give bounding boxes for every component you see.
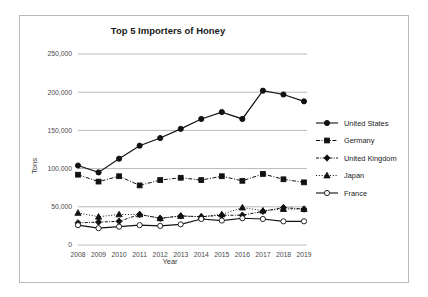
- data-point-marker: [96, 170, 101, 175]
- legend-label: Germany: [344, 136, 375, 145]
- data-point-marker: [96, 226, 101, 231]
- data-point-marker: [260, 216, 265, 221]
- data-point-marker: [301, 219, 306, 224]
- data-point-marker: [240, 178, 245, 183]
- data-point-marker: [178, 175, 183, 180]
- data-point-marker: [239, 204, 245, 210]
- data-point-marker: [302, 180, 307, 185]
- data-point-marker: [260, 88, 265, 93]
- chart-legend: United StatesGermanyUnited KingdomJapanF…: [316, 119, 397, 198]
- data-point-marker: [199, 178, 204, 183]
- x-tick-label: 2008: [70, 251, 85, 258]
- data-point-marker: [324, 190, 329, 195]
- data-point-marker: [219, 174, 224, 179]
- series-united-states: [75, 88, 306, 175]
- data-point-marker: [137, 183, 142, 188]
- chart-title: Top 5 Importers of Honey: [111, 25, 226, 36]
- x-tick-label: 2011: [132, 251, 147, 258]
- data-point-marker: [117, 174, 122, 179]
- x-tick-label: 2019: [296, 251, 311, 258]
- legend-label: France: [344, 189, 367, 198]
- x-tick-label: 2016: [235, 251, 250, 258]
- data-point-marker: [261, 172, 266, 177]
- data-point-marker: [116, 211, 122, 217]
- data-point-marker: [325, 138, 330, 143]
- data-point-marker: [137, 143, 142, 148]
- legend-label: United Kingdom: [344, 154, 397, 163]
- series-line: [78, 91, 304, 173]
- data-point-marker: [178, 126, 183, 131]
- series-united-kingdom: [75, 204, 307, 226]
- data-point-marker: [219, 109, 224, 114]
- data-point-marker: [281, 177, 286, 182]
- data-point-marker: [158, 178, 163, 183]
- x-tick-label: 2017: [255, 251, 270, 258]
- x-axis-title: Year: [162, 257, 178, 266]
- data-point-marker: [324, 120, 329, 125]
- y-tick-label: 100,000: [47, 165, 72, 172]
- data-point-marker: [178, 222, 183, 227]
- series-line: [78, 174, 304, 185]
- legend-label: United States: [344, 119, 389, 128]
- honey-importers-line-chart: Top 5 Importers of Honey 050,000100,0001…: [20, 16, 408, 282]
- data-point-marker: [158, 135, 163, 140]
- y-tick-label: 200,000: [47, 89, 72, 96]
- data-point-marker: [158, 223, 163, 228]
- data-point-marker: [219, 218, 224, 223]
- legend-label: Japan: [344, 171, 364, 180]
- x-tick-label: 2018: [276, 251, 291, 258]
- data-point-marker: [75, 210, 81, 216]
- data-point-marker: [76, 172, 81, 177]
- series-germany: [76, 172, 307, 188]
- data-point-marker: [199, 216, 204, 221]
- y-tick-label: 0: [68, 241, 72, 248]
- data-point-marker: [301, 99, 306, 104]
- data-point-marker: [240, 216, 245, 221]
- data-point-marker: [137, 223, 142, 228]
- data-point-marker: [75, 223, 80, 228]
- data-point-marker: [116, 224, 121, 229]
- data-point-marker: [116, 156, 121, 161]
- legend-item-united-kingdom[interactable]: United Kingdom: [316, 154, 397, 163]
- legend-item-france[interactable]: France: [316, 189, 367, 198]
- data-point-marker: [281, 219, 286, 224]
- series-france: [75, 216, 306, 231]
- y-axis-tick-labels: 050,000100,000150,000200,000250,000: [47, 50, 72, 248]
- series-line: [78, 218, 304, 228]
- data-point-marker: [96, 219, 102, 225]
- data-point-marker: [116, 218, 122, 224]
- data-point-marker: [96, 179, 101, 184]
- x-tick-label: 2014: [194, 251, 209, 258]
- series-group: [75, 88, 307, 231]
- legend-item-germany[interactable]: Germany: [316, 136, 375, 145]
- x-tick-label: 2015: [214, 251, 229, 258]
- legend-item-united-states[interactable]: United States: [316, 119, 389, 128]
- data-point-marker: [199, 116, 204, 121]
- data-point-marker: [240, 116, 245, 121]
- data-point-marker: [75, 163, 80, 168]
- y-axis-title: Tons: [30, 158, 39, 174]
- y-tick-label: 250,000: [47, 50, 72, 57]
- x-tick-label: 2009: [91, 251, 106, 258]
- data-point-marker: [324, 155, 330, 161]
- y-tick-label: 50,000: [51, 203, 72, 210]
- x-axis-tick-labels: 2008200920102011201220132014201520162017…: [70, 251, 311, 258]
- x-tick-label: 2010: [112, 251, 127, 258]
- chart-figure-frame: Top 5 Importers of Honey 050,000100,0001…: [19, 15, 409, 283]
- data-point-marker: [281, 92, 286, 97]
- y-tick-label: 150,000: [47, 127, 72, 134]
- legend-item-japan[interactable]: Japan: [316, 171, 364, 180]
